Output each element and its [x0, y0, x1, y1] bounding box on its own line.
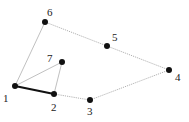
edge-5-6	[45, 22, 107, 46]
node-7	[59, 59, 65, 65]
node-label-7: 7	[47, 52, 53, 64]
graph-diagram: 1234567	[0, 0, 189, 122]
node-5	[104, 43, 110, 49]
node-label-6: 6	[47, 6, 53, 18]
edge-3-4	[90, 70, 169, 100]
node-label-4: 4	[175, 71, 181, 83]
node-label-5: 5	[112, 31, 118, 43]
edge-2-3	[54, 94, 90, 100]
node-2	[51, 91, 57, 97]
node-label-2: 2	[51, 101, 57, 113]
node-label-1: 1	[3, 92, 9, 104]
edge-1-6	[15, 22, 45, 86]
edge-4-5	[107, 46, 169, 70]
node-1	[12, 83, 18, 89]
node-3	[87, 97, 93, 103]
node-4	[166, 67, 172, 73]
edge-1-7	[15, 62, 62, 86]
node-label-3: 3	[87, 105, 93, 117]
edge-1-2	[15, 86, 54, 94]
edge-7-2	[54, 62, 62, 94]
node-6	[42, 19, 48, 25]
edges	[15, 22, 169, 100]
